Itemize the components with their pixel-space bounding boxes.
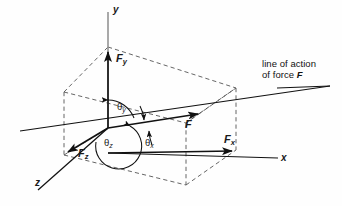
force-x-component-vector	[108, 151, 232, 153]
x-axis-line	[108, 153, 278, 158]
force-vector-diagram: y x z Fy F Fx Fz θy θz θx line of action…	[0, 0, 342, 206]
diagram-canvas	[0, 0, 342, 206]
force-resultant-label: F	[185, 118, 192, 131]
force-z-component-label: Fz	[78, 147, 88, 160]
theta-y-subscript: y	[122, 106, 126, 113]
theta-x-label: θx	[145, 138, 154, 149]
x-axis-label: x	[281, 152, 287, 164]
construction-box	[64, 47, 236, 185]
annotation-line-2-prefix: of force	[262, 69, 297, 80]
force-y-symbol: F	[116, 52, 123, 64]
box-top-back-left-edge	[64, 47, 108, 92]
force-z-symbol: F	[78, 147, 85, 159]
annotation-line-2: of force F	[262, 70, 316, 81]
force-y-component-label: Fy	[116, 52, 127, 65]
theta-z-subscript: z	[109, 142, 113, 149]
force-x-symbol: F	[224, 133, 231, 145]
annotation-force-symbol: F	[297, 69, 303, 80]
force-z-subscript: z	[85, 152, 89, 161]
line-of-action-annotation: line of action of force F	[262, 59, 316, 81]
box-top-back-right-edge	[108, 47, 236, 88]
force-x-subscript: x	[231, 138, 235, 147]
y-axis-label: y	[113, 4, 119, 16]
force-y-subscript: y	[123, 57, 127, 66]
theta-y-label: θy	[117, 102, 126, 113]
theta-z-label: θz	[104, 138, 113, 149]
z-axis-line	[38, 128, 108, 190]
theta-x-subscript: x	[150, 142, 154, 149]
force-x-component-label: Fx	[224, 133, 235, 146]
z-axis-label: z	[35, 177, 40, 189]
